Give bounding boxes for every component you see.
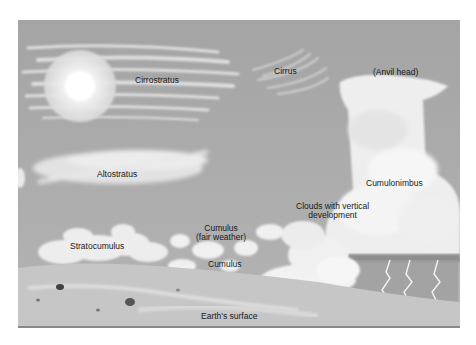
label-altostratus: Altostratus — [97, 170, 137, 179]
label-cumulus: Cumulus — [208, 260, 242, 269]
label-cumulus-fair-weather: Cumulus (fair weather) — [196, 224, 246, 242]
label-cumulus-fair-line2: (fair weather) — [196, 233, 246, 242]
label-cirrostratus: Cirrostratus — [135, 76, 179, 85]
label-vertical-development: Clouds with vertical development — [296, 202, 369, 220]
label-anvil-head: (Anvil head) — [373, 68, 418, 77]
sun — [69, 77, 91, 99]
label-stratocumulus: Stratocumulus — [70, 242, 124, 251]
label-earths-surface: Earth's surface — [201, 312, 257, 321]
cloud-diagram: Cirrostratus Cirrus (Anvil head) Altostr… — [18, 20, 460, 328]
label-cirrus: Cirrus — [274, 67, 297, 76]
label-vertical-line2: development — [296, 211, 369, 220]
label-cumulonimbus: Cumulonimbus — [366, 179, 423, 188]
